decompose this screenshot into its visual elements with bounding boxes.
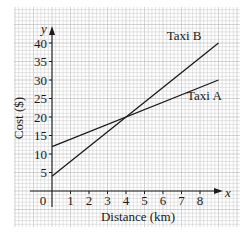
- y-tick-label: 10: [34, 147, 47, 162]
- y-tick-label: 30: [34, 73, 47, 88]
- y-tick-label: 40: [34, 36, 47, 51]
- y-tick-label: 35: [34, 54, 47, 69]
- y-axis-label: Cost ($): [11, 97, 26, 139]
- x-tick-label: 2: [86, 193, 93, 208]
- y-axis-symbol: y: [39, 21, 47, 36]
- y-tick-label: 25: [34, 91, 47, 106]
- x-tick-label: 1: [67, 193, 74, 208]
- x-tick-label: 7: [178, 193, 185, 208]
- series-label-taxi-a: Taxi A: [187, 88, 222, 103]
- x-tick-label: 3: [104, 193, 111, 208]
- y-tick-label: 5: [41, 165, 48, 180]
- y-tick-label: 15: [34, 128, 47, 143]
- x-tick-label: 6: [160, 193, 167, 208]
- y-tick-label: 20: [34, 110, 47, 125]
- y-axis-arrow-icon: [49, 26, 55, 35]
- x-axis-label: Distance (km): [101, 209, 175, 224]
- x-tick-label: 4: [123, 193, 130, 208]
- chart: 12345678510152025303540 Distance (km) Co…: [0, 0, 249, 235]
- x-tick-label: 5: [141, 193, 148, 208]
- x-tick-label: 8: [197, 193, 204, 208]
- x-axis-symbol: x: [224, 185, 231, 200]
- series-label-taxi-b: Taxi B: [167, 28, 202, 43]
- origin-label: 0: [40, 193, 47, 208]
